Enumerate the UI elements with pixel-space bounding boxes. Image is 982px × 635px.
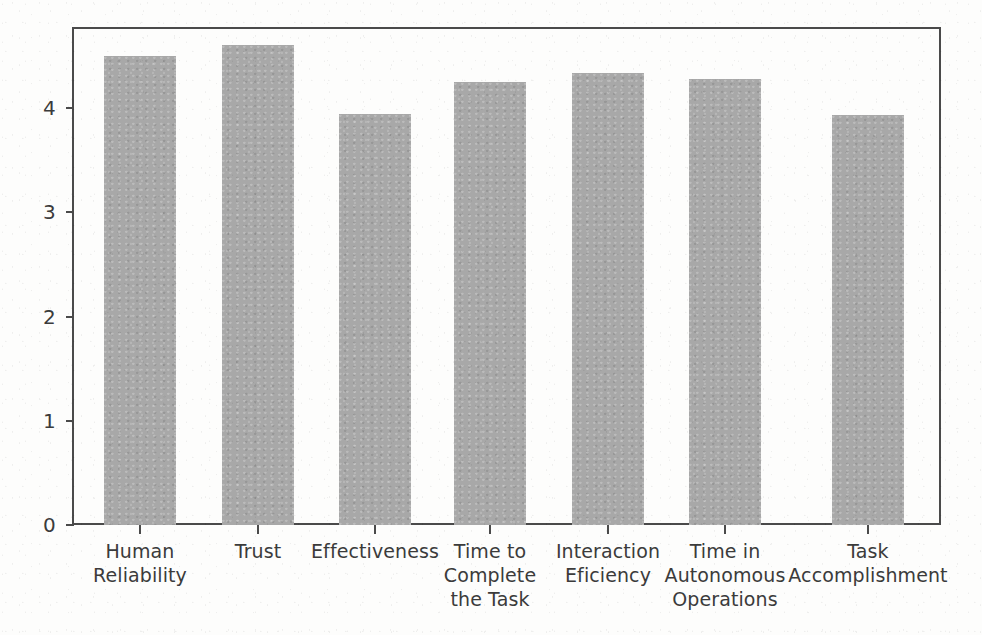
y-axis-tick-label: 4 <box>43 96 56 120</box>
plot-area <box>72 27 941 525</box>
y-axis: 01234 <box>26 0 56 635</box>
y-axis-tick-label: 1 <box>43 409 56 433</box>
x-axis-tick-label-line: Interaction <box>556 539 660 563</box>
x-axis-tick-label-line: Effectiveness <box>311 539 439 563</box>
x-axis-tick-label-line: Task <box>788 539 947 563</box>
y-axis-tick-mark <box>66 316 74 318</box>
y-axis-tick-mark <box>66 107 74 109</box>
bar <box>689 79 761 525</box>
bar <box>832 115 904 525</box>
x-axis-tick-label-line: Reliability <box>93 563 187 587</box>
x-axis-tick-label: Trust <box>235 539 282 563</box>
x-axis-tick-label-line: Complete <box>444 563 536 587</box>
x-axis-tick-label: Time inAutonomousOperations <box>665 539 786 611</box>
y-axis-tick-mark <box>66 211 74 213</box>
chart-page: 01234 HumanReliabilityTrustEffectiveness… <box>0 0 982 635</box>
bar <box>222 45 294 525</box>
y-axis-tick-label: 0 <box>43 513 56 537</box>
x-axis-tick-mark <box>374 525 376 534</box>
x-axis-tick-mark <box>867 525 869 534</box>
x-axis-tick-label: TaskAccomplishment <box>788 539 947 587</box>
y-axis-tick-label: 2 <box>43 305 56 329</box>
y-axis-tick-mark <box>66 524 74 526</box>
x-axis-tick-label: InteractionEficiency <box>556 539 660 587</box>
x-axis-tick-label: HumanReliability <box>93 539 187 587</box>
x-axis-tick-mark <box>489 525 491 534</box>
x-axis-tick-mark <box>607 525 609 534</box>
x-axis-tick-mark <box>139 525 141 534</box>
bar <box>454 82 526 525</box>
x-axis-tick-label-line: Human <box>93 539 187 563</box>
x-axis-tick-label-line: Trust <box>235 539 282 563</box>
x-axis-tick-label: Time toCompletethe Task <box>444 539 536 611</box>
x-axis-tick-label-line: Time in <box>665 539 786 563</box>
x-axis-tick-label-line: Operations <box>665 587 786 611</box>
x-axis-tick-label: Effectiveness <box>311 539 439 563</box>
y-axis-tick-mark <box>66 420 74 422</box>
y-axis-tick-label: 3 <box>43 200 56 224</box>
x-axis-tick-label-line: Accomplishment <box>788 563 947 587</box>
bar <box>339 114 411 525</box>
bar <box>104 56 176 525</box>
x-axis-tick-label-line: Autonomous <box>665 563 786 587</box>
x-axis-tick-label-line: Time to <box>444 539 536 563</box>
x-axis-tick-label-line: the Task <box>444 587 536 611</box>
x-axis-tick-mark <box>257 525 259 534</box>
x-axis-tick-mark <box>724 525 726 534</box>
bar <box>572 73 644 525</box>
x-axis-tick-label-line: Eficiency <box>556 563 660 587</box>
